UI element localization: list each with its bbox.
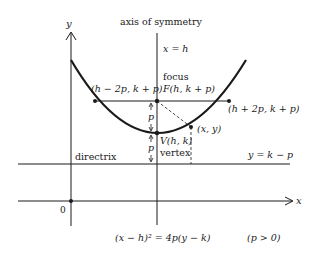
focus-word-label: focus [163, 71, 189, 82]
directrix-equation-label: y = k − p [247, 149, 293, 160]
focus-point [155, 99, 159, 103]
origin-point [69, 199, 73, 203]
condition-label: (p > 0) [247, 232, 281, 243]
vertex-word-label: vertex [159, 147, 191, 158]
directrix-label: directrix [75, 151, 117, 162]
left-latus-point [93, 99, 97, 103]
parabola-diagram: y x 0 axis of symmetry x = h focus F(h, … [0, 0, 313, 256]
p-upper-label: p [148, 111, 154, 122]
right-point-label: (h + 2p, k + p) [228, 103, 300, 114]
axis-equation-label: x = h [163, 43, 188, 54]
general-point [189, 125, 193, 129]
focus-point-label: F(h, k + p) [162, 83, 215, 94]
p-lower-label: p [148, 142, 154, 153]
x-axis-label: x [296, 195, 302, 206]
vertex-point [155, 131, 159, 135]
general-point-label: (x, y) [197, 123, 221, 134]
x-axis [18, 197, 293, 205]
y-axis-label: y [65, 18, 72, 29]
vertex-point-label: V(h, k) [160, 135, 192, 146]
origin-label: 0 [60, 205, 66, 215]
equation-label: (x − h)² = 4p(y − k) [115, 232, 211, 243]
left-point-label: (h − 2p, k + p) [91, 83, 163, 94]
axis-of-symmetry-label: axis of symmetry [120, 16, 202, 27]
focal-distance-line [157, 101, 191, 127]
